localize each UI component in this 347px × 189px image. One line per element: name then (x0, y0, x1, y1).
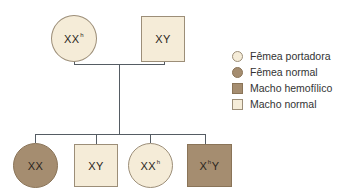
child-hemophiliac-male: XhY (187, 144, 232, 187)
legend-item-normal-male: Macho normal (232, 97, 317, 111)
mother-carrier-female: XXh (51, 15, 97, 62)
child-carrier-female: XXh (128, 143, 173, 188)
light-circle-icon (232, 51, 243, 62)
genotype-label: XY (88, 160, 104, 172)
genotype-label: XXh (64, 33, 84, 45)
child-normal-female: XX (13, 143, 58, 188)
child-1-drop-line (35, 134, 36, 143)
child-2-drop-line (96, 134, 97, 144)
genotype-label: XhY (199, 160, 219, 172)
dark-square-icon (232, 83, 243, 94)
legend-label: Macho normal (250, 98, 317, 110)
legend-item-carrier-female: Fêmea portadora (232, 49, 331, 63)
dark-circle-icon (232, 67, 243, 78)
genotype-label: XX (28, 160, 44, 172)
child-normal-male: XY (74, 144, 118, 187)
descent-line (119, 64, 120, 135)
legend-label: Fêmea normal (250, 66, 318, 78)
legend-label: Fêmea portadora (250, 50, 331, 62)
genotype-label: XY (155, 33, 171, 45)
father-normal-male: XY (141, 16, 185, 62)
child-4-drop-line (205, 134, 206, 144)
genotype-label: XXh (140, 160, 160, 172)
child-3-drop-line (150, 134, 151, 143)
sibship-line (35, 134, 206, 135)
legend-label: Macho hemofílico (250, 82, 332, 94)
legend-item-hemophiliac-male: Macho hemofílico (232, 81, 332, 95)
light-square-icon (232, 99, 243, 110)
legend-item-normal-female: Fêmea normal (232, 65, 318, 79)
